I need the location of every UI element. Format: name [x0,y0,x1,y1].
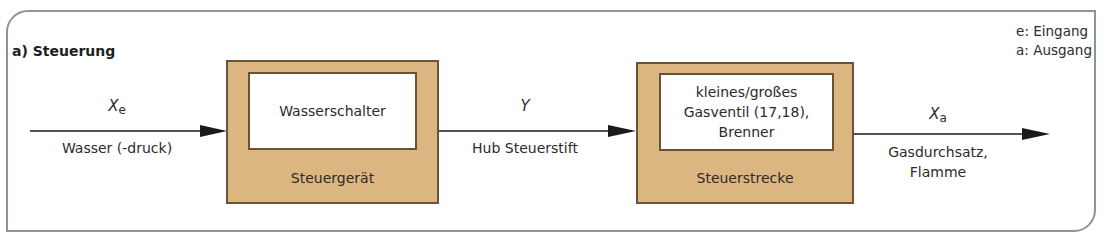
signal-output-description: Gasdurchsatz, Flamme [858,142,1018,182]
block-plant-inner-line: Gasventil (17,18), [684,102,810,122]
block-plant: kleines/großes Gasventil (17,18), Brenne… [636,62,854,204]
block-plant-inner: kleines/großes Gasventil (17,18), Brenne… [659,73,834,151]
arrowhead-icon [200,125,227,137]
block-controller: Wasserschalter Steuergerät [226,60,439,204]
arrow-input [30,125,227,137]
block-plant-inner-line: kleines/großes [696,82,798,102]
block-plant-inner-line: Brenner [719,122,775,142]
signal-input-description: Wasser (-druck) [37,138,197,158]
block-controller-inner-text: Wasserschalter [279,101,386,121]
arrowhead-icon [608,125,636,137]
arrow-intermediate [438,125,636,137]
block-controller-inner: Wasserschalter [248,72,417,150]
signal-intermediate-description: Hub Steuerstift [445,138,605,158]
arrowhead-icon [1022,128,1050,140]
block-controller-label: Steuergerät [228,170,437,186]
signal-output-symbol: Xa [878,105,998,125]
signal-intermediate-symbol: Y [465,97,585,115]
signal-input-symbol: Xe [57,97,177,117]
block-plant-label: Steuerstrecke [638,170,852,186]
arrow-output [853,128,1050,140]
